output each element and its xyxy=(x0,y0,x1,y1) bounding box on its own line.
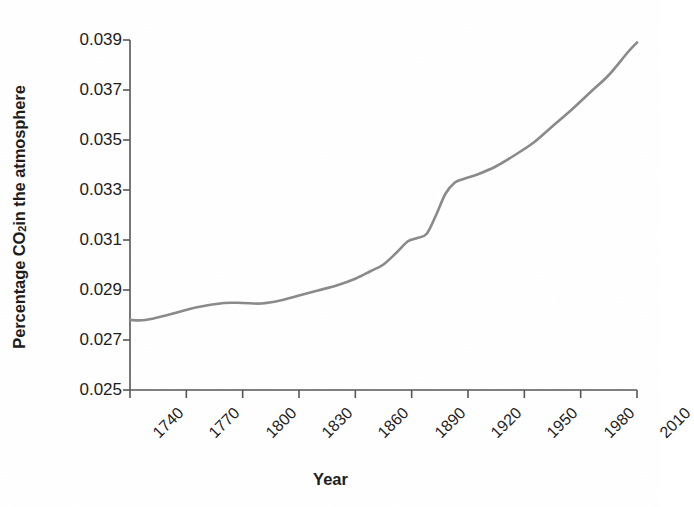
x-axis-tick-label: 2010 xyxy=(656,404,694,442)
data-series xyxy=(130,43,637,321)
series-line xyxy=(130,43,637,321)
axes xyxy=(123,40,637,398)
